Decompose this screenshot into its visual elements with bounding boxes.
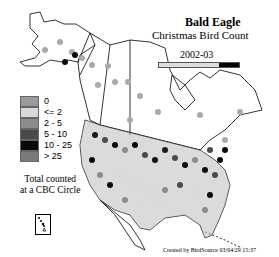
legend-label: 2 - 5 [44, 118, 62, 129]
map-subtitle: Christmas Bird Count [152, 29, 249, 41]
legend-item-1: <= 2 [20, 107, 72, 118]
timeline-current-marker [219, 63, 239, 67]
hudson-bay [170, 75, 195, 110]
credit-text: Created by BirdSource 03/04/29 15:37 [163, 247, 256, 253]
hawaii-islands-icon [36, 215, 50, 234]
legend-swatch [20, 96, 39, 107]
legend-label: 5 - 10 [44, 129, 67, 140]
legend-item-4: 10 - 25 [20, 140, 72, 151]
legend-item-5: > 25 [20, 151, 72, 162]
legend-label: 0 [44, 96, 49, 107]
hawaii-inset [35, 214, 51, 235]
legend-note-line2: at a CBC Circle [20, 185, 80, 196]
legend-swatch [20, 151, 39, 162]
legend-swatch [20, 107, 39, 118]
season-label: 2002-03 [180, 49, 213, 60]
legend-note: Total counted at a CBC Circle [20, 174, 80, 196]
season-timeline-bar [158, 62, 240, 68]
legend-swatch [20, 140, 39, 151]
legend-label: 10 - 25 [44, 140, 72, 151]
legend-item-0: 0 [20, 96, 72, 107]
legend-label: > 25 [44, 151, 62, 162]
legend-item-3: 5 - 10 [20, 129, 72, 140]
legend-label: <= 2 [44, 107, 62, 118]
legend-note-line1: Total counted [20, 174, 80, 185]
legend-swatch [20, 118, 39, 129]
map-title: Bald Eagle [185, 15, 241, 30]
legend: 0 <= 2 2 - 5 5 - 10 10 - 25 > 25 [20, 96, 72, 162]
legend-swatch [20, 129, 39, 140]
legend-item-2: 2 - 5 [20, 118, 72, 129]
